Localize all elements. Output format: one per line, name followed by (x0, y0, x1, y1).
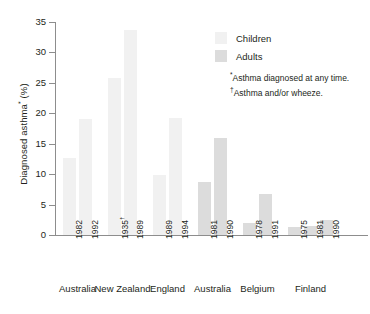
y-axis-title-mark: * (17, 101, 24, 104)
y-axis-line (55, 22, 56, 235)
y-axis-title: Diagnosed asthma* (%) (17, 49, 29, 219)
legend-swatch-children-icon (215, 32, 227, 44)
y-tick-35 (49, 22, 55, 23)
y-tick-label-20: 20 (24, 108, 46, 117)
y-tick-0 (49, 235, 55, 236)
year-label-new-zealand-1989: 1989 (135, 193, 145, 239)
legend: Children Adults (215, 32, 271, 68)
year-label-australia-1990: 1990 (225, 193, 235, 239)
footnote-line-1: *Asthma diagnosed at any time. (230, 69, 349, 84)
y-tick-30 (49, 52, 55, 53)
year-label-belgium-1991: 1991 (270, 193, 280, 239)
year-label-australia-1981: 1981 (209, 193, 219, 239)
legend-label-adults: Adults (236, 51, 262, 62)
footnote-line-2: †Asthma and/or wheeze. (230, 84, 349, 99)
year-label-finland-1975: 1975 (299, 193, 309, 239)
y-tick-label-25: 25 (24, 78, 46, 87)
footnote-2-text: Asthma and/or wheeze. (234, 88, 323, 98)
y-tick-5 (49, 205, 55, 206)
year-label-england-1994: 1994 (180, 193, 190, 239)
footnote-1-text: Asthma diagnosed at any time. (233, 73, 350, 83)
y-tick-10 (49, 174, 55, 175)
year-label-new-zealand-1935: 1935† (119, 193, 130, 239)
group-label-finland-5: Finland (279, 283, 343, 294)
y-tick-label-5: 5 (24, 200, 46, 209)
year-label-finland-1990: 1990 (331, 193, 341, 239)
y-tick-25 (49, 83, 55, 84)
legend-label-children: Children (236, 33, 271, 44)
legend-item-children: Children (215, 32, 271, 44)
legend-item-adults: Adults (215, 50, 271, 62)
footnotes: *Asthma diagnosed at any time. †Asthma a… (230, 69, 349, 99)
y-tick-label-10: 10 (24, 169, 46, 178)
y-tick-20 (49, 113, 55, 114)
year-label-finland-1981: 1981 (315, 193, 325, 239)
y-tick-label-35: 35 (24, 17, 46, 26)
year-label-belgium-1978: 1978 (254, 193, 264, 239)
legend-swatch-adults-icon (215, 50, 227, 62)
year-label-australia-1982: 1982 (74, 193, 84, 239)
y-tick-label-15: 15 (24, 139, 46, 148)
year-label-australia-1992: 1992 (90, 193, 100, 239)
y-tick-15 (49, 144, 55, 145)
y-tick-label-0: 0 (24, 230, 46, 239)
year-label-england-1989: 1989 (164, 193, 174, 239)
y-tick-label-30: 30 (24, 47, 46, 56)
asthma-prevalence-bar-chart: Diagnosed asthma* (%) 05101520253035 198… (0, 0, 370, 314)
